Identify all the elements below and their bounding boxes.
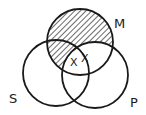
label-p: P	[130, 96, 138, 109]
x-mark-msp: X	[70, 57, 78, 68]
venn-diagram: M S P X X	[0, 0, 146, 115]
label-s: S	[9, 92, 17, 105]
label-m: M	[114, 17, 125, 30]
x-mark-mp-boundary: X	[81, 53, 89, 64]
